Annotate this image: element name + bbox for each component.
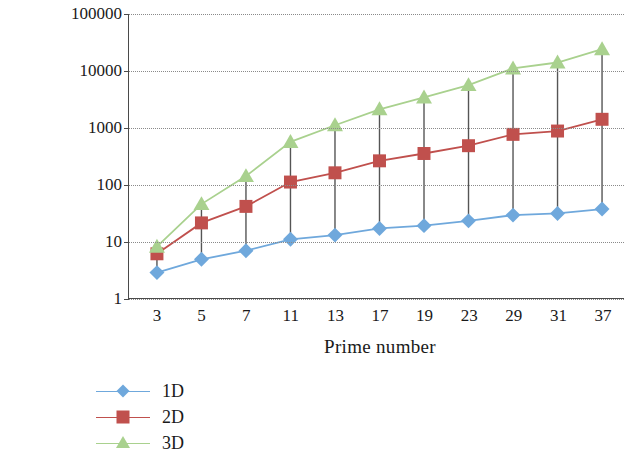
legend-label: 1D	[162, 381, 184, 402]
y-axis-tick-mark	[124, 14, 129, 15]
y-axis-tick-label: 1000	[88, 118, 122, 138]
y-axis-title: Number of users	[2, 0, 32, 30]
chart-container: Number of users 110100100010000100000357…	[0, 0, 644, 462]
x-axis-tick-label: 19	[416, 306, 433, 326]
data-point-3d	[193, 196, 209, 210]
x-axis-tick-label: 5	[197, 306, 206, 326]
legend-item-1d[interactable]: 1D	[92, 378, 272, 404]
grid-line	[129, 242, 624, 243]
x-axis-tick-label: 23	[461, 306, 478, 326]
legend-marker-2d	[92, 407, 154, 427]
data-point-3d	[282, 134, 298, 148]
legend-item-2d[interactable]: 2D	[92, 404, 272, 430]
data-point-1d	[595, 202, 610, 217]
data-point-3d	[327, 117, 343, 131]
data-point-2d	[462, 139, 475, 152]
legend-symbol-square	[112, 406, 134, 428]
y-axis-tick-mark	[124, 128, 129, 129]
plot-area: 1101001000100001000003571113171923293137	[128, 14, 624, 299]
data-point-1d	[283, 232, 298, 247]
x-axis-tick-label: 7	[242, 306, 251, 326]
data-point-1d	[194, 252, 209, 267]
legend-label: 2D	[162, 407, 184, 428]
data-point-2d	[195, 216, 208, 229]
data-point-1d	[238, 243, 253, 258]
data-point-2d	[328, 166, 341, 179]
x-axis-tick-label: 37	[595, 306, 612, 326]
x-axis-tick-label: 31	[550, 306, 567, 326]
data-point-2d	[284, 176, 297, 189]
data-point-3d	[238, 168, 254, 182]
y-axis-tick-label: 100	[97, 175, 123, 195]
y-axis-tick-mark	[124, 185, 129, 186]
data-point-2d	[239, 200, 252, 213]
data-point-1d	[372, 221, 387, 236]
y-axis-tick-mark	[124, 71, 129, 72]
grid-line	[129, 299, 624, 300]
data-point-1d	[327, 228, 342, 243]
grid-line	[129, 71, 624, 72]
legend-marker-3d	[92, 433, 154, 453]
y-axis-tick-mark	[124, 242, 129, 243]
data-point-3d	[461, 77, 477, 91]
data-point-1d	[506, 208, 521, 223]
x-axis-tick-label: 3	[153, 306, 162, 326]
data-point-1d	[417, 218, 432, 233]
y-axis-tick-label: 1	[114, 289, 123, 309]
chart-svg	[129, 14, 624, 298]
x-axis-title: Prime number	[130, 336, 630, 358]
legend-symbol-diamond	[112, 380, 134, 402]
data-point-3d	[594, 41, 610, 55]
legend-label: 3D	[162, 433, 184, 454]
data-point-2d	[418, 147, 431, 160]
y-axis-tick-label: 10000	[80, 61, 123, 81]
y-axis-tick-mark	[124, 299, 129, 300]
grid-line	[129, 14, 624, 15]
legend-marker-1d	[92, 381, 154, 401]
x-axis-tick-label: 17	[372, 306, 389, 326]
data-point-2d	[551, 125, 564, 138]
data-point-2d	[373, 154, 386, 167]
data-point-1d	[461, 213, 476, 228]
y-axis-tick-label: 100000	[71, 4, 122, 24]
x-axis-tick-label: 29	[505, 306, 522, 326]
x-axis-tick-label: 13	[327, 306, 344, 326]
grid-line	[129, 128, 624, 129]
data-point-2d	[596, 113, 609, 126]
data-point-1d	[149, 265, 164, 280]
x-axis-tick-label: 11	[283, 306, 299, 326]
chart-legend: 1D2D3D	[92, 378, 272, 456]
legend-symbol-triangle	[112, 432, 134, 454]
legend-item-3d[interactable]: 3D	[92, 430, 272, 456]
y-axis-tick-label: 10	[105, 232, 122, 252]
data-point-2d	[507, 128, 520, 141]
data-point-1d	[550, 206, 565, 221]
grid-line	[129, 185, 624, 186]
